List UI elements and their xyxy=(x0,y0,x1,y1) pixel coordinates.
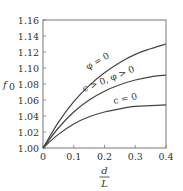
x-tick-label: 0.4 xyxy=(158,151,173,162)
annotation-c-0: c = 0 xyxy=(112,91,138,106)
x-tick-label: 0.1 xyxy=(66,151,81,162)
y-tick-label: 1.12 xyxy=(18,47,39,58)
y-tick-label: 1.16 xyxy=(18,15,39,26)
x-axis-label-numerator: d xyxy=(101,165,107,176)
chart: 1.001.021.041.061.081.101.121.141.1600.1… xyxy=(0,0,183,191)
x-tick-label: 0 xyxy=(40,151,46,162)
y-axis-label: f xyxy=(2,79,9,90)
y-tick-label: 1.08 xyxy=(18,79,39,90)
x-tick-label: 0.3 xyxy=(128,151,143,162)
y-tick-label: 1.06 xyxy=(18,95,39,106)
y-axis-label-subscript: 0 xyxy=(9,81,15,92)
plot-area: 1.001.021.041.061.081.101.121.141.1600.1… xyxy=(2,15,174,190)
x-axis-label-denominator: L xyxy=(100,178,108,189)
y-tick-label: 1.10 xyxy=(18,63,39,74)
x-tick-label: 0.2 xyxy=(97,151,112,162)
y-tick-label: 1.04 xyxy=(18,111,39,122)
y-tick-label: 1.02 xyxy=(18,127,39,138)
curve-2 xyxy=(43,105,166,148)
annotation-phi-0: φ = 0 xyxy=(84,50,111,71)
y-tick-label: 1.00 xyxy=(18,143,39,154)
y-tick-label: 1.14 xyxy=(18,31,39,42)
